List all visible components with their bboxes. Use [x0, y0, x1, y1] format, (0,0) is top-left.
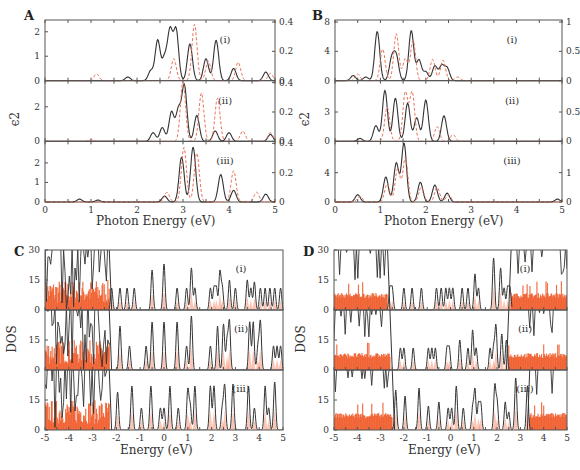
subplot-label: (i)	[219, 34, 230, 45]
y-tick-label: 0	[324, 76, 330, 86]
y-tick-label: 3	[324, 107, 330, 117]
x-tick-label: 4	[514, 205, 520, 215]
dashed-series	[335, 34, 562, 81]
right-y-tick-label: 0.4	[279, 138, 294, 148]
y-tick-label: 2	[34, 102, 40, 112]
x-tick-label: -2	[112, 433, 121, 443]
subplot-label: (i)	[235, 263, 246, 274]
subplot-label: (i)	[506, 34, 517, 45]
y-tick-label: 15	[29, 395, 41, 405]
y-tick-label: 15	[318, 335, 330, 345]
x-tick-label: -4	[64, 433, 73, 443]
x-tick-label: -5	[41, 433, 50, 443]
x-tick-label: 4	[226, 205, 232, 215]
right-y-tick-label: 0.2	[279, 168, 293, 178]
right-y-tick-label: 0.2	[279, 107, 293, 117]
subplot-label: (i)	[519, 263, 530, 274]
x-tick-label: -3	[88, 433, 97, 443]
x-tick-label: 3	[518, 433, 524, 443]
x-tick-label: 0	[161, 433, 167, 443]
x-tick-label: 4	[256, 433, 262, 443]
y-tick-label: 0	[34, 305, 40, 315]
right-y-tick-label: 0.5	[566, 107, 580, 117]
right-y-tick-label: 0	[566, 197, 572, 207]
x-tick-label: -5	[330, 433, 339, 443]
x-tick-label: -4	[353, 433, 362, 443]
subplot-frame	[335, 20, 562, 81]
right-y-tick-label: 1	[566, 17, 572, 27]
figure: 01200.20.4(i)0200.20.4(ii)01200.20.4(iii…	[0, 0, 580, 470]
subplot-label: (ii)	[234, 323, 248, 334]
x-tick-label: 5	[272, 205, 278, 215]
dos-subplot	[334, 366, 567, 430]
x-tick-label: 5	[564, 433, 570, 443]
y-tick-label: 0	[34, 197, 40, 207]
y-tick-label: 0	[323, 425, 329, 435]
y-tick-label: 0	[34, 76, 40, 86]
right-y-tick-label: 0	[566, 76, 572, 86]
dos-subplot	[334, 246, 567, 310]
y-tick-label: 0	[34, 365, 40, 375]
dashed-series	[45, 148, 275, 203]
dos-subplot	[334, 306, 567, 370]
subplot-label: (iii)	[216, 155, 233, 166]
subplot-label: (iii)	[503, 155, 520, 166]
x-tick-label: 5	[559, 205, 565, 215]
solid-series	[45, 84, 275, 141]
x-tick-label: 2	[423, 205, 429, 215]
x-tick-label: 3	[468, 205, 474, 215]
x-tick-label: -3	[376, 433, 385, 443]
y-tick-label: 1	[34, 177, 40, 187]
x-tick-label: 1	[88, 205, 94, 215]
x-tick-label: -1	[423, 433, 432, 443]
right-y-tick-label: 0.2	[279, 46, 293, 56]
y-tick-label: 0	[324, 136, 330, 146]
x-tick-label: 0	[332, 205, 338, 215]
y-tick-label: 2	[34, 158, 40, 168]
dashed-series	[335, 91, 562, 141]
y-tick-label: 0	[323, 305, 329, 315]
x-tick-label: 2	[134, 205, 140, 215]
dos-curve	[108, 316, 283, 370]
solid-series	[45, 27, 275, 81]
right-y-tick-label: 0.5	[566, 46, 580, 56]
x-tick-label: 5	[280, 433, 286, 443]
solid-series	[45, 148, 275, 203]
right-y-tick-label: 0.4	[279, 17, 294, 27]
solid-series	[335, 31, 562, 81]
x-tick-label: 0	[42, 205, 48, 215]
y-tick-label: 0	[324, 197, 330, 207]
y-tick-label: 0	[34, 425, 40, 435]
subplot-label: (iii)	[232, 383, 249, 394]
x-tick-label: 3	[233, 433, 239, 443]
y-tick-label: 30	[29, 245, 41, 255]
x-tick-label: 3	[180, 205, 186, 215]
y-tick-label: 15	[29, 335, 41, 345]
solid-series	[335, 91, 562, 142]
x-tick-label: 1	[471, 433, 477, 443]
x-tick-label: 1	[378, 205, 384, 215]
solid-series	[335, 143, 562, 202]
x-tick-label: -1	[136, 433, 145, 443]
right-y-tick-label: 0	[279, 197, 285, 207]
y-tick-label: 4	[324, 168, 330, 178]
dos-subplot	[45, 230, 283, 310]
x-tick-label: 1	[185, 433, 191, 443]
subplot-frame	[45, 141, 275, 202]
y-tick-label: 15	[29, 275, 41, 285]
subplot-label: (iii)	[516, 383, 533, 394]
right-y-tick-label: 0.4	[279, 78, 294, 88]
x-tick-label: -2	[400, 433, 409, 443]
x-tick-label: 4	[541, 433, 547, 443]
right-y-tick-label: 0	[566, 136, 572, 146]
y-tick-label: 2	[34, 27, 40, 37]
y-tick-label: 15	[318, 275, 330, 285]
y-tick-label: 8	[324, 17, 330, 27]
right-y-tick-label: 1	[566, 168, 572, 178]
subplot-frame	[335, 141, 562, 202]
dos-curve	[391, 378, 531, 430]
y-tick-label: 30	[318, 245, 330, 255]
subplot-label: (ii)	[518, 323, 532, 334]
subplot-label: (ii)	[505, 95, 519, 106]
x-tick-label: 0	[448, 433, 454, 443]
